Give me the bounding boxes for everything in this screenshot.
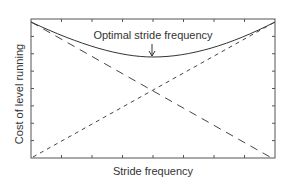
increasing-cost-line (33, 22, 275, 157)
annotation-optimal: Optimal stride frequency (93, 29, 212, 41)
y-axis-label: Cost of level running (13, 44, 25, 144)
x-axis-label: Stride frequency (113, 165, 193, 177)
decreasing-cost-line (31, 22, 270, 157)
arrow-down-icon (149, 44, 155, 56)
